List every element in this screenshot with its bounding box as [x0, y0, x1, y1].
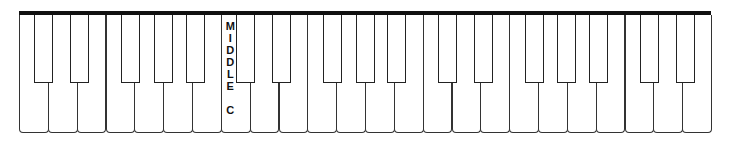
black-key-a-sharp[interactable] [186, 15, 205, 83]
middle-c-label-letter: D [224, 44, 236, 56]
middle-c-label-letter: M [224, 20, 236, 32]
piano-keyboard: MIDDLE C [0, 0, 732, 144]
black-key-f-sharp[interactable] [323, 15, 342, 83]
middle-c-label-letter: L [224, 68, 236, 80]
middle-c-label-letter [224, 92, 236, 104]
black-key-f-sharp[interactable] [525, 15, 544, 83]
black-key-c-sharp[interactable] [640, 15, 659, 83]
black-key-g-sharp[interactable] [356, 15, 375, 83]
middle-c-label: MIDDLE C [224, 20, 236, 116]
black-key-d-sharp[interactable] [676, 15, 695, 83]
black-key-c-sharp[interactable] [34, 15, 53, 83]
black-key-a-sharp[interactable] [387, 15, 406, 83]
black-key-c-sharp[interactable] [438, 15, 457, 83]
middle-c-label-letter: E [224, 80, 236, 92]
black-key-g-sharp[interactable] [154, 15, 173, 83]
black-key-d-sharp[interactable] [474, 15, 493, 83]
middle-c-label-letter: I [224, 32, 236, 44]
black-key-d-sharp[interactable] [272, 15, 291, 83]
black-key-f-sharp[interactable] [121, 15, 140, 83]
black-key-c-sharp[interactable] [236, 15, 255, 83]
black-key-a-sharp[interactable] [589, 15, 608, 83]
middle-c-label-letter: C [224, 104, 236, 116]
black-key-g-sharp[interactable] [557, 15, 576, 83]
middle-c-label-letter: D [224, 56, 236, 68]
black-key-d-sharp[interactable] [70, 15, 89, 83]
